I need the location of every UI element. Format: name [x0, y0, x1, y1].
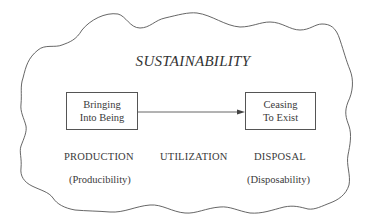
box-line: Into Being [80, 111, 125, 124]
phase-disposal-label: DISPOSAL [254, 151, 306, 162]
phase-production-label: PRODUCTION [64, 151, 134, 162]
disposability-label: (Disposability) [247, 174, 310, 185]
producibility-label: (Producibility) [69, 174, 131, 185]
box-line: Ceasing [264, 98, 298, 111]
diagram-title: SUSTAINABILITY [0, 53, 374, 70]
cloud-boundary [0, 0, 374, 223]
phase-utilization-label: UTILIZATION [160, 151, 228, 162]
arrowhead-icon [237, 110, 245, 115]
box-line: Bringing [83, 98, 120, 111]
box-line: To Exist [263, 111, 298, 124]
box-bringing-into-being: Bringing Into Being [66, 92, 138, 130]
sustainability-diagram: SUSTAINABILITY Bringing Into Being Ceasi… [0, 0, 374, 223]
box-ceasing-to-exist: Ceasing To Exist [245, 92, 316, 130]
